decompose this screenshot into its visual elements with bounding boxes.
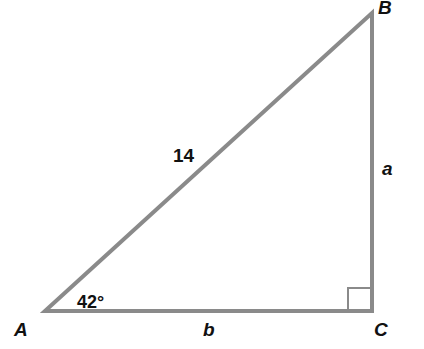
- triangle-shape: [45, 13, 372, 311]
- right-angle-marker-icon: [348, 288, 372, 311]
- vertex-label-b: B: [378, 0, 392, 18]
- vertex-label-a: A: [13, 319, 28, 340]
- side-b-label: b: [203, 319, 215, 340]
- triangle-diagram: A B C 14 a b 42°: [0, 0, 424, 349]
- side-a-label: a: [382, 158, 393, 179]
- triangle-svg: A B C 14 a b 42°: [0, 0, 424, 349]
- vertex-label-c: C: [374, 319, 388, 340]
- angle-a-label: 42°: [77, 292, 104, 312]
- hypotenuse-label: 14: [173, 145, 195, 166]
